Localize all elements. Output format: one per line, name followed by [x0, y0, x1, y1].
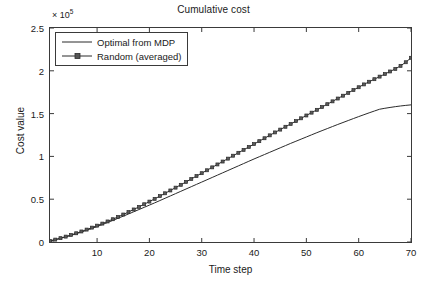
legend-label-random: Random (averaged) — [94, 51, 182, 62]
x-axis-tick-labels: 10203040506070 — [49, 247, 412, 261]
y-tick-label: 2.5 — [31, 23, 44, 34]
y-tick-label: 0 — [39, 237, 44, 248]
x-tick-label: 50 — [301, 247, 312, 258]
chart-legend: Optimal from MDP Random (averaged) — [55, 32, 188, 66]
legend-line-sample-random — [60, 50, 94, 62]
legend-item-random[interactable]: Random (averaged) — [60, 49, 183, 63]
y-axis-exponent-label: × 105 — [52, 8, 73, 20]
x-tick-label: 10 — [92, 247, 103, 258]
y-tick-label: 1.5 — [31, 108, 44, 119]
x-axis-title: Time step — [49, 264, 412, 275]
y-tick-label: 2 — [39, 65, 44, 76]
legend-label-optimal: Optimal from MDP — [94, 37, 175, 48]
x-tick-label: 30 — [196, 247, 207, 258]
x-tick-label: 40 — [249, 247, 260, 258]
y-tick-label: 1 — [39, 151, 44, 162]
legend-item-optimal[interactable]: Optimal from MDP — [60, 35, 183, 49]
y-axis-title: Cost value — [15, 71, 26, 191]
chart-figure: Cumulative cost × 105 00.511.522.5 10203… — [0, 0, 427, 289]
x-tick-label: 20 — [144, 247, 155, 258]
legend-line-sample-optimal — [60, 36, 94, 48]
x-tick-label: 70 — [406, 247, 417, 258]
y-axis-exponent-base: × 10 — [52, 10, 70, 20]
y-axis-exponent-power: 5 — [70, 8, 74, 15]
y-tick-label: 0.5 — [31, 194, 44, 205]
x-tick-label: 60 — [353, 247, 364, 258]
